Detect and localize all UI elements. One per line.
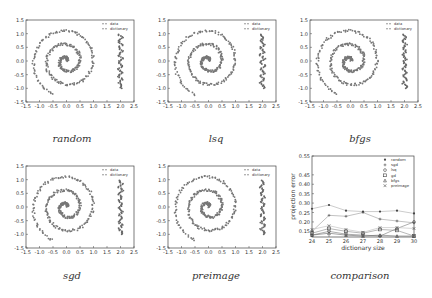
y-tick-label: 0.15 (299, 228, 310, 234)
data-point (76, 32, 78, 34)
legend-marker (389, 23, 391, 25)
data-point (91, 196, 93, 198)
dictionary-point (261, 184, 263, 186)
data-point (174, 68, 176, 70)
data-point (184, 40, 186, 42)
data-point (208, 43, 210, 45)
data-point (36, 47, 38, 49)
dictionary-point (260, 213, 262, 215)
data-point (77, 227, 79, 229)
dictionary-point (118, 60, 120, 62)
data-point (56, 79, 58, 81)
x-tick-label: 1.0 (90, 103, 98, 109)
data-point (330, 88, 332, 90)
data-point (205, 43, 207, 45)
y-tick-label: 0.0 (300, 58, 308, 64)
dictionary-point (119, 83, 121, 85)
data-point (80, 79, 82, 81)
y-tick-label: 1.0 (158, 177, 166, 183)
dictionary-point (118, 180, 120, 182)
scatter-svg: 1.51.00.50.0-0.5-1.0-1.5-1.5-1.0-0.50.00… (0, 146, 144, 256)
data-point (78, 59, 80, 61)
data-point (75, 48, 77, 50)
data-point (180, 42, 182, 44)
data-point (86, 220, 88, 222)
data-point (233, 208, 235, 210)
data-point (174, 65, 176, 67)
plot-bfgs: 1.51.00.50.0-0.5-1.0-1.5-1.5-1.0-0.50.00… (284, 0, 428, 110)
data-point (53, 47, 55, 49)
data-point (190, 199, 192, 201)
dictionary-point (263, 223, 265, 225)
x-tick-label: 0.0 (347, 103, 355, 109)
data-point (62, 44, 64, 46)
dictionary-point (119, 206, 121, 208)
data-point (62, 82, 64, 84)
y-tick-label: 1.5 (16, 163, 24, 169)
data-point (215, 30, 217, 32)
data-point (183, 231, 185, 233)
plot-frame (312, 156, 414, 237)
legend-label-dictionary: dictionary (110, 173, 129, 177)
data-point (332, 53, 334, 55)
x-tick-label: 0.5 (76, 103, 84, 109)
data-point (195, 80, 197, 82)
data-point (231, 48, 233, 50)
x-tick-label: 2.5 (272, 103, 280, 109)
data-point (376, 67, 378, 69)
data-point (181, 187, 183, 189)
data-point (347, 30, 349, 32)
data-point (84, 38, 86, 40)
data-point (317, 67, 319, 69)
data-point (205, 229, 207, 231)
y-tick-label: 0.0 (16, 58, 24, 64)
data-point (46, 89, 48, 91)
data-point (221, 80, 223, 82)
dictionary-point (120, 63, 122, 65)
data-point (346, 84, 348, 86)
data-point (333, 50, 335, 52)
data-point (359, 68, 361, 70)
data-point (90, 215, 92, 217)
data-point (220, 82, 222, 84)
data-point (204, 82, 206, 84)
data-point (320, 79, 322, 81)
y-tick-label: -0.5 (156, 72, 166, 78)
data-point (204, 29, 206, 31)
data-point (353, 84, 355, 86)
data-point (213, 46, 215, 48)
data-point (198, 228, 200, 230)
dictionary-point (265, 58, 267, 60)
data-point (376, 54, 378, 56)
dictionary-point (263, 195, 265, 197)
y-tick-label: -0.5 (298, 72, 308, 78)
data-point (69, 83, 71, 85)
data-point (185, 233, 187, 235)
dictionary-point (259, 46, 261, 48)
data-point (75, 193, 77, 195)
data-point (230, 73, 232, 75)
x-tick-label: -1.0 (35, 103, 45, 109)
data-point (57, 225, 59, 227)
data-point (179, 227, 181, 229)
dictionary-point (260, 83, 262, 85)
data-point (182, 85, 184, 87)
caption-preimage: preimage (146, 270, 286, 281)
data-point (189, 217, 191, 219)
data-point (47, 52, 49, 54)
data-point (221, 198, 223, 200)
data-point (231, 192, 233, 194)
data-point (58, 81, 60, 83)
data-point (50, 49, 52, 51)
data-point (38, 47, 40, 49)
x-tick-label: -0.5 (190, 103, 200, 109)
data-point (219, 64, 221, 66)
data-point (79, 65, 81, 67)
data-point (321, 47, 323, 49)
data-point (39, 229, 41, 231)
data-point (93, 62, 95, 64)
data-point (86, 41, 88, 43)
y-tick-label: -0.5 (14, 218, 24, 224)
data-point (76, 179, 78, 181)
data-point (79, 53, 81, 55)
